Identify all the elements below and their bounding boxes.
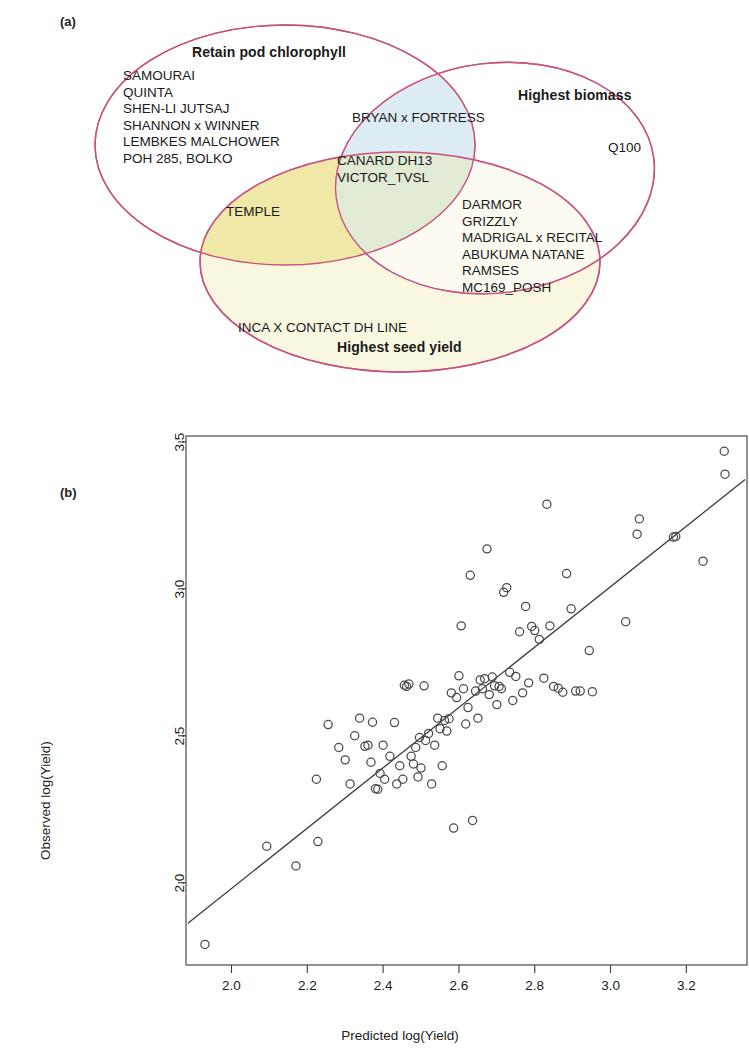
axis-ticks xyxy=(178,442,686,973)
scatter-point xyxy=(585,646,593,654)
scatter-point xyxy=(462,720,470,728)
plot-frame xyxy=(186,436,747,965)
scatter-point xyxy=(351,732,359,740)
scatter-point xyxy=(509,696,517,704)
scatter-point xyxy=(414,773,422,781)
scatter-point xyxy=(409,760,417,768)
scatter-point xyxy=(567,605,575,613)
scatter-point xyxy=(417,764,425,772)
venn-item: LEMBKES MALCHOWER xyxy=(123,134,280,151)
venn-region-yield-only: INCA X CONTACT DH LINE xyxy=(238,320,407,337)
x-axis-title: Predicted log(Yield) xyxy=(341,1028,458,1043)
scatter-point xyxy=(540,674,548,682)
scatter-point xyxy=(346,780,354,788)
scatter-point xyxy=(341,756,349,764)
y-tick-label: 3.5 xyxy=(172,432,187,451)
venn-item: Q100 xyxy=(608,140,641,157)
x-tick-label: 3.0 xyxy=(601,978,620,993)
scatter-point xyxy=(453,693,461,701)
scatter-point xyxy=(485,691,493,699)
scatter-point xyxy=(493,701,501,709)
y-tick-label: 2.5 xyxy=(172,726,187,745)
venn-item: RAMSES xyxy=(462,263,602,280)
scatter-point xyxy=(396,762,404,770)
scatter-point xyxy=(399,775,407,783)
scatter-point xyxy=(720,447,728,455)
scatter-point xyxy=(368,718,376,726)
scatter-point xyxy=(543,500,551,508)
venn-region-chlorophyll-only: SAMOURAI QUINTA SHEN-LI JUTSAJ SHANNON x… xyxy=(123,68,280,167)
venn-item: SHEN-LI JUTSAJ xyxy=(123,101,280,118)
x-tick-label: 3.2 xyxy=(677,978,696,993)
scatter-point xyxy=(386,752,394,760)
scatter-point xyxy=(292,862,300,870)
scatter-point xyxy=(412,743,420,751)
scatter-point xyxy=(468,816,476,824)
scatter-point xyxy=(519,689,527,697)
scatter-point xyxy=(312,775,320,783)
y-tick-label: 3.0 xyxy=(172,579,187,598)
x-tick-label: 2.0 xyxy=(222,978,241,993)
scatter-point xyxy=(512,672,520,680)
scatter-point xyxy=(506,668,514,676)
scatter-point xyxy=(622,618,630,626)
venn-title-biomass: Highest biomass xyxy=(518,87,632,103)
venn-region-chlorophyll-yield: TEMPLE xyxy=(226,204,280,221)
scatter-point xyxy=(438,762,446,770)
venn-region-biomass-yield: DARMOR GRIZZLY MADRIGAL x RECITAL ABUKUM… xyxy=(462,197,602,296)
scatter-point xyxy=(459,685,467,693)
venn-item: INCA X CONTACT DH LINE xyxy=(238,320,407,337)
scatter-point xyxy=(635,515,643,523)
venn-item: DARMOR xyxy=(462,197,602,214)
scatter-point xyxy=(431,741,439,749)
scatter-point xyxy=(515,628,523,636)
venn-item: CANARD DH13 xyxy=(337,153,432,170)
scatter-point xyxy=(464,703,472,711)
scatter-point xyxy=(483,545,491,553)
scatter-plot-panel: (b) Observed log(Yield) Predicted log(Yi… xyxy=(0,400,749,1052)
x-tick-label: 2.2 xyxy=(298,978,317,993)
scatter-point xyxy=(474,714,482,722)
scatter-point xyxy=(721,470,729,478)
venn-item: SAMOURAI xyxy=(123,68,280,85)
scatter-point xyxy=(546,622,554,630)
scatter-point xyxy=(379,741,387,749)
scatter-point xyxy=(497,685,505,693)
scatter-point xyxy=(390,718,398,726)
venn-diagram-panel: (a) Retain pod chlo xyxy=(0,0,749,400)
venn-item: TEMPLE xyxy=(226,204,280,221)
scatter-point xyxy=(263,842,271,850)
venn-title-chlorophyll: Retain pod chlorophyll xyxy=(192,44,346,60)
scatter-point xyxy=(488,673,496,681)
venn-region-biomass-only: Q100 xyxy=(608,140,641,157)
fit-line xyxy=(188,479,745,923)
scatter-point xyxy=(420,682,428,690)
y-axis-title: Observed log(Yield) xyxy=(38,741,53,860)
venn-region-chlorophyll-biomass: BRYAN x FORTRESS xyxy=(352,110,485,127)
venn-item: MADRIGAL x RECITAL xyxy=(462,230,602,247)
venn-item: POH 285, BOLKO xyxy=(123,151,280,168)
venn-item: QUINTA xyxy=(123,85,280,102)
scatter-point xyxy=(457,622,465,630)
scatter-point xyxy=(450,824,458,832)
venn-region-all-three: CANARD DH13 VICTOR_TVSL xyxy=(337,153,432,186)
regression-line xyxy=(188,479,745,923)
scatter-svg xyxy=(0,400,749,1052)
x-tick-label: 2.6 xyxy=(450,978,469,993)
scatter-point xyxy=(535,635,543,643)
scatter-point xyxy=(466,571,474,579)
x-tick-label: 2.4 xyxy=(374,978,393,993)
venn-item: ABUKUMA NATANE xyxy=(462,247,602,264)
scatter-point xyxy=(525,679,533,687)
scatter-point xyxy=(335,743,343,751)
venn-item: VICTOR_TVSL xyxy=(337,170,432,187)
scatter-point xyxy=(447,689,455,697)
scatter-point xyxy=(455,672,463,680)
scatter-point xyxy=(367,758,375,766)
scatter-point xyxy=(324,720,332,728)
venn-item: GRIZZLY xyxy=(462,214,602,231)
scatter-point xyxy=(201,940,209,948)
y-tick-label: 2.0 xyxy=(172,873,187,892)
scatter-point xyxy=(314,837,322,845)
scatter-point xyxy=(428,780,436,788)
